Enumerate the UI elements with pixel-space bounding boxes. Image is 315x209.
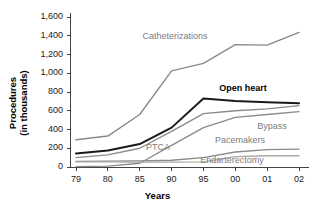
x-tick-label: 90 (158, 174, 186, 184)
x-tick-label: 01 (253, 174, 281, 184)
x-tick-label: 95 (189, 174, 217, 184)
y-axis-title-line1: Procedures (7, 51, 18, 155)
y-tick-label: 1,600 (0, 11, 63, 21)
x-axis-title: Years (0, 190, 315, 201)
y-axis-title-line2: (in thousands) (18, 51, 29, 155)
series-label-catheterizations: Catheterizations (142, 31, 207, 41)
series-label-bypass: Bypass (257, 121, 287, 131)
y-axis-title: Procedures (in thousands) (7, 51, 29, 155)
series-label-pacemakers: Pacemakers (215, 135, 265, 145)
x-tick-label: 80 (94, 174, 122, 184)
y-tick-label: 0 (0, 161, 63, 171)
line-chart: 02004006008001,0001,2001,4001,600 798085… (0, 0, 315, 209)
x-tick-label: 02 (285, 174, 313, 184)
y-tick-label: 1,400 (0, 30, 63, 40)
x-tick-label: 79 (62, 174, 90, 184)
x-tick-label: 00 (221, 174, 249, 184)
series-label-endarterectomy: Endarterectomy (200, 155, 264, 165)
series-label-ptca: PTCA (146, 142, 170, 152)
series-label-open-heart: Open heart (219, 83, 267, 93)
x-tick-label: 85 (126, 174, 154, 184)
